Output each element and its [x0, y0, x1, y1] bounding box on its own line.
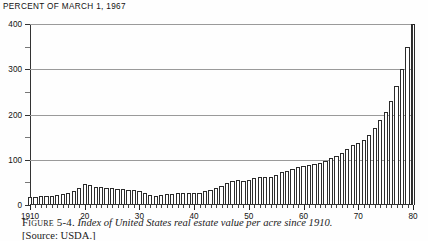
bar-1949 [241, 181, 245, 205]
x-tick-1974 [380, 205, 381, 208]
figure-source: [Source: USDA.] [22, 230, 422, 240]
x-tick-1980 [413, 205, 414, 210]
bar-1943 [208, 190, 212, 205]
x-tick-1962 [315, 205, 316, 208]
bar-1930 [137, 191, 141, 205]
bar-1928 [126, 190, 130, 205]
x-tick-1948 [238, 205, 239, 208]
bar-1965 [329, 158, 333, 205]
x-tick-1952 [260, 205, 261, 208]
bar-1979 [405, 47, 409, 205]
x-tick-1941 [200, 205, 201, 208]
bar-1952 [258, 177, 262, 205]
x-tick-1973 [375, 205, 376, 208]
x-tick-1963 [320, 205, 321, 208]
bar-1974 [378, 120, 382, 205]
x-tick-1976 [391, 205, 392, 208]
bar-1969 [351, 145, 355, 205]
bar-1919 [77, 188, 81, 205]
bar-1921 [88, 185, 92, 205]
x-tick-1914 [52, 205, 53, 208]
x-tick-1979 [408, 205, 409, 208]
x-tick-1912 [41, 205, 42, 208]
y-tick-label-400: 400 [8, 20, 22, 29]
bar-1967 [340, 153, 344, 205]
bar-1970 [356, 143, 360, 205]
bar-1973 [373, 128, 377, 205]
x-tick-1932 [150, 205, 151, 208]
y-tick-label-0: 0 [17, 201, 22, 210]
x-tick-1957 [287, 205, 288, 208]
bar-1958 [290, 169, 294, 205]
bar-1954 [269, 177, 273, 206]
x-tick-1958 [293, 205, 294, 208]
bar-series [30, 24, 413, 205]
x-tick-1940 [194, 205, 195, 210]
bar-1947 [230, 181, 234, 205]
x-tick-1967 [342, 205, 343, 208]
x-tick-1964 [325, 205, 326, 208]
bar-1956 [280, 172, 284, 205]
bar-1960 [301, 166, 305, 205]
x-tick-1917 [68, 205, 69, 208]
bar-1927 [121, 189, 125, 205]
bar-1918 [72, 191, 76, 205]
bar-1929 [132, 190, 136, 205]
x-tick-1924 [107, 205, 108, 208]
figure-number: Figure 5-4. [22, 216, 75, 228]
x-tick-1943 [211, 205, 212, 208]
x-tick-1923 [101, 205, 102, 208]
bar-1924 [104, 188, 108, 205]
x-tick-1916 [63, 205, 64, 208]
x-tick-1950 [249, 205, 250, 210]
x-tick-1911 [35, 205, 36, 208]
x-tick-1921 [90, 205, 91, 208]
x-tick-1975 [386, 205, 387, 208]
bar-1972 [367, 135, 371, 205]
plot-area: 0100200300400 191020304050607080 [30, 24, 413, 205]
figure-container: PERCENT OF MARCH 1, 1967 0100200300400 1… [0, 0, 428, 241]
x-tick-1971 [364, 205, 365, 208]
bar-1948 [236, 180, 240, 205]
figure-caption: Figure 5-4. Index of United States real … [22, 216, 422, 229]
x-tick-1951 [254, 205, 255, 208]
bar-1953 [263, 177, 267, 205]
x-tick-1949 [243, 205, 244, 208]
x-tick-1929 [134, 205, 135, 208]
bar-1955 [274, 175, 278, 205]
bar-1942 [203, 191, 207, 205]
x-tick-1956 [282, 205, 283, 208]
x-tick-1977 [397, 205, 398, 208]
bar-1945 [219, 186, 223, 205]
y-tick-label-200: 200 [8, 110, 22, 119]
x-tick-1935 [167, 205, 168, 208]
x-tick-1928 [128, 205, 129, 208]
bar-1946 [225, 183, 229, 205]
bar-1977 [394, 86, 398, 205]
bar-1975 [384, 112, 388, 205]
y-tick-label-100: 100 [8, 155, 22, 164]
bar-1922 [94, 187, 98, 205]
bar-1959 [296, 167, 300, 205]
x-tick-1942 [205, 205, 206, 208]
x-tick-1945 [222, 205, 223, 208]
x-tick-1920 [85, 205, 86, 210]
bar-1976 [389, 101, 393, 205]
x-tick-1953 [265, 205, 266, 208]
x-tick-1946 [227, 205, 228, 208]
bar-1951 [252, 178, 256, 205]
x-tick-1938 [183, 205, 184, 208]
bar-1923 [99, 187, 103, 205]
x-tick-1926 [118, 205, 119, 208]
x-tick-1947 [232, 205, 233, 208]
x-tick-1972 [369, 205, 370, 208]
x-tick-1968 [347, 205, 348, 208]
y-tick-label-300: 300 [8, 65, 22, 74]
bar-1961 [307, 165, 311, 205]
x-tick-1919 [79, 205, 80, 208]
x-tick-1955 [276, 205, 277, 208]
x-tick-1970 [358, 205, 359, 210]
x-tick-1937 [178, 205, 179, 208]
x-tick-1918 [74, 205, 75, 208]
x-tick-1966 [336, 205, 337, 208]
